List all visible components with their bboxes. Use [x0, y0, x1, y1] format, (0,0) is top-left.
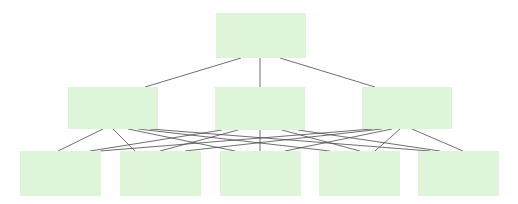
edge-m1-b1 [58, 129, 103, 151]
node-root [216, 13, 306, 58]
node-b3 [220, 151, 301, 196]
node-b4 [319, 151, 400, 196]
node-b5 [418, 151, 499, 196]
hierarchy-diagram [0, 0, 518, 204]
node-b2 [120, 151, 201, 196]
node-b1 [20, 151, 101, 196]
edge-m3-b2 [185, 129, 382, 151]
edge-m1-b2 [113, 129, 135, 151]
edge-m3-b3 [285, 129, 392, 151]
node-m3 [362, 87, 452, 129]
node-m2 [215, 87, 305, 130]
node-m1 [68, 87, 158, 129]
edge-m3-b1 [100, 129, 372, 151]
edge-m2-b1 [90, 130, 222, 151]
edge-root-m3 [280, 58, 375, 87]
edge-root-m1 [145, 58, 241, 87]
